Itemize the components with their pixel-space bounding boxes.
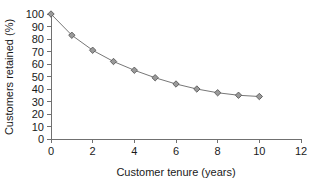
data-point-marker <box>131 67 137 73</box>
y-tick-label: 100 <box>26 8 44 20</box>
x-axis-tick-group: 024681012 <box>48 139 307 157</box>
y-tick-label: 90 <box>32 21 44 33</box>
x-axis-title: Customer tenure (years) <box>116 166 235 178</box>
data-point-marker <box>173 81 179 87</box>
x-tick-label: 0 <box>48 145 54 157</box>
retention-series-line <box>51 14 259 97</box>
data-point-marker <box>214 90 220 96</box>
x-tick-label: 8 <box>215 145 221 157</box>
y-tick-label: 80 <box>32 33 44 45</box>
x-tick-label: 10 <box>253 145 265 157</box>
y-tick-label: 40 <box>32 83 44 95</box>
x-tick-label: 6 <box>173 145 179 157</box>
x-tick-label: 2 <box>90 145 96 157</box>
data-point-group <box>48 11 263 100</box>
data-point-marker <box>110 58 116 64</box>
y-axis-tick-group: 0102030405060708090100 <box>26 8 51 145</box>
chart-canvas: 0102030405060708090100 024681012 Custome… <box>0 0 321 184</box>
data-point-marker <box>235 92 241 98</box>
y-tick-label: 50 <box>32 71 44 83</box>
retention-chart: 0102030405060708090100 024681012 Custome… <box>0 0 321 184</box>
y-tick-label: 30 <box>32 96 44 108</box>
y-axis-title: Customers retained (%) <box>3 19 15 135</box>
y-tick-label: 10 <box>32 121 44 133</box>
x-tick-label: 4 <box>131 145 137 157</box>
data-point-marker <box>89 47 95 53</box>
data-point-marker <box>152 75 158 81</box>
x-tick-label: 12 <box>295 145 307 157</box>
data-point-marker <box>194 86 200 92</box>
y-tick-label: 0 <box>38 133 44 145</box>
y-tick-label: 70 <box>32 46 44 58</box>
y-tick-label: 20 <box>32 108 44 120</box>
data-point-marker <box>256 93 262 99</box>
y-tick-label: 60 <box>32 58 44 70</box>
